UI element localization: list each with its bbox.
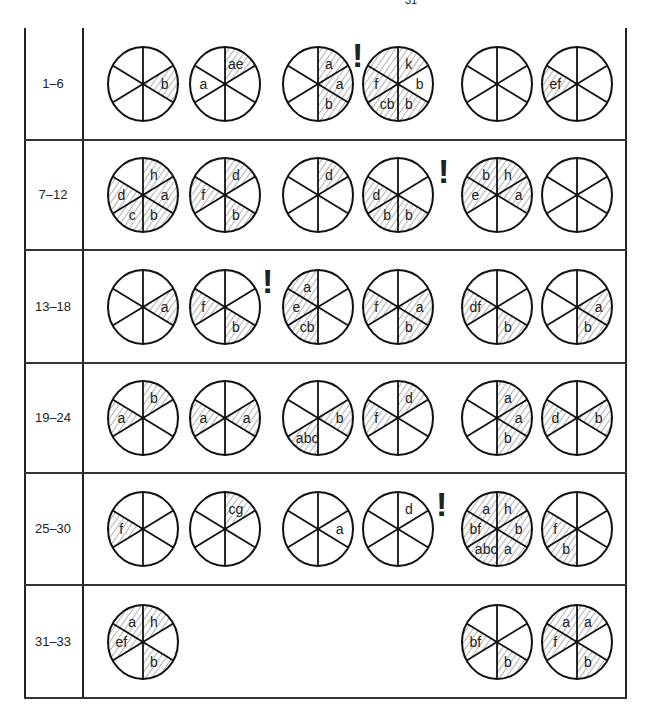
sector-label: abc	[296, 430, 319, 446]
hatched-sector-TR	[398, 47, 428, 84]
hatched-sector-L	[190, 288, 225, 325]
sector-label: d	[372, 187, 380, 203]
sector-label: ae	[228, 56, 244, 72]
hatched-sector-TR	[398, 381, 428, 418]
hexagram-circle: babc	[281, 379, 355, 457]
sector-label: b	[595, 410, 603, 426]
sector-label: b	[150, 390, 158, 406]
sector-label: ef	[115, 634, 127, 650]
sector-label: df	[469, 299, 481, 315]
hexagram-circle: bf	[188, 268, 262, 346]
sector-label: a	[325, 56, 333, 72]
page-number: 31	[405, 0, 417, 6]
hatched-sector-TR	[143, 605, 173, 642]
sector-label: d	[232, 167, 240, 183]
hexagram-circle: abfa	[540, 603, 614, 681]
sector-label: b	[150, 653, 158, 669]
sector-label: h	[150, 614, 158, 630]
hexagram-circle: haeb	[460, 156, 534, 234]
hexagram-circle: ef	[540, 45, 614, 123]
hexagram-circle: aab	[281, 45, 355, 123]
table-row: 19–24baaababcdfaabbd	[24, 363, 627, 473]
hatched-sector-TR	[225, 158, 255, 195]
sector-label: ef	[549, 76, 561, 92]
row-label: 13–18	[24, 299, 82, 314]
exclamation-mark: !	[262, 264, 273, 298]
sector-label: k	[405, 56, 413, 72]
sector-label: d	[325, 167, 333, 183]
hexagram-circle: aab	[460, 379, 534, 457]
sector-label: b	[232, 318, 240, 334]
sector-label: f	[201, 187, 205, 203]
hatched-sector-BR	[577, 642, 607, 679]
hexagram-circle: a	[106, 268, 180, 346]
sector-label: f	[201, 299, 205, 315]
hexagram-circle: kbbcbf	[361, 45, 435, 123]
hatched-sector-L	[108, 511, 143, 548]
sector-label: h	[504, 167, 512, 183]
sector-label: f	[119, 521, 123, 537]
hexagram-circle: a	[281, 490, 355, 568]
sector-label: a	[128, 614, 136, 630]
hexagram-circle: ba	[106, 379, 180, 457]
hatched-sector-BR	[225, 195, 255, 232]
row-label: 19–24	[24, 410, 82, 425]
sector-label: a	[199, 410, 207, 426]
hatched-sector-BR	[398, 84, 428, 121]
sector-label: a	[161, 187, 169, 203]
sector-label: a	[562, 614, 570, 630]
sector-label: d	[551, 410, 559, 426]
sector-label: b	[150, 207, 158, 223]
sector-label: a	[515, 410, 523, 426]
hexagram-circle: bbf	[460, 603, 534, 681]
sector-label: b	[405, 207, 413, 223]
hatched-sector-L	[542, 400, 577, 437]
sector-label: b	[383, 207, 391, 223]
sector-label: a	[515, 187, 523, 203]
exclamation-mark: !	[438, 154, 449, 188]
sector-label: a	[336, 76, 344, 92]
sector-label: b	[584, 653, 592, 669]
sector-label: a	[416, 299, 424, 315]
sector-label: f	[553, 521, 557, 537]
sector-label: a	[243, 410, 251, 426]
hexagram-circle: aa	[188, 379, 262, 457]
row-label: 31–33	[24, 634, 82, 649]
table-row: 31–33hbefabbfabfa	[24, 585, 627, 698]
exclamation-mark: !	[352, 38, 363, 72]
hexagram-circle: aea	[188, 45, 262, 123]
sector-label: cb	[300, 318, 315, 334]
sector-label: e	[292, 299, 300, 315]
sector-label: f	[374, 299, 378, 315]
sector-label: a	[504, 390, 512, 406]
sector-label: b	[482, 167, 490, 183]
sector-label: d	[117, 187, 125, 203]
hatched-sector-TR	[143, 381, 173, 418]
sector-label: h	[150, 167, 158, 183]
hexagram-circle: bbd	[361, 156, 435, 234]
sector-label: d	[405, 501, 413, 517]
sector-label: b	[584, 318, 592, 334]
sector-label: a	[336, 521, 344, 537]
hatched-sector-BR	[143, 642, 173, 679]
sector-label: b	[336, 410, 344, 426]
sector-label: f	[374, 410, 378, 426]
hexagram-circle: bd	[540, 379, 614, 457]
sector-label: b	[515, 521, 523, 537]
sector-label: bf	[469, 634, 481, 650]
row-label: 25–30	[24, 521, 82, 536]
hexagram-circle: ab	[540, 268, 614, 346]
sector-label: b	[504, 653, 512, 669]
hexagram-circle: d	[281, 156, 355, 234]
hatched-sector-BR	[497, 642, 527, 679]
hexagram-circle: d	[361, 490, 435, 568]
sector-label: cg	[228, 501, 243, 517]
hatched-sector-TR	[318, 158, 348, 195]
sector-label: a	[161, 299, 169, 315]
hexagram-circle: cbea	[281, 268, 355, 346]
hexagram-circle: abf	[361, 268, 435, 346]
table-row: 7–12habcddbfdbbdhaeb!	[24, 140, 627, 250]
sector-label: bf	[469, 521, 481, 537]
table-row: 1–6baeaaabkbbcbfef!	[24, 28, 627, 140]
sector-label: b	[232, 207, 240, 223]
